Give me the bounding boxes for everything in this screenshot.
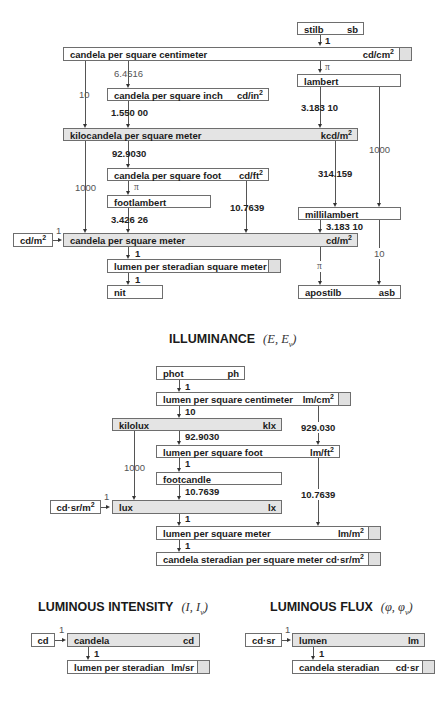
factor: π: [134, 182, 139, 193]
unit-kilocandela-per-square-meter: kilocandela per square meter kcd/m2: [63, 128, 358, 141]
unit-stilb: stilb sb: [297, 22, 364, 35]
unit-symbol: cd: [183, 635, 194, 646]
factor: 1.550 00: [111, 107, 148, 118]
unit-name: kilocandela per square meter: [70, 130, 201, 141]
unit-name: lux: [119, 502, 133, 513]
input-unit-bracket: cd: [31, 633, 55, 647]
unit-kilolux: kilolux klx: [112, 418, 282, 431]
unit-symbol: cd·sr/m2: [326, 554, 364, 565]
unit-candela-per-square-meter: candela per square meter cd/m2: [63, 233, 358, 247]
unit-name: candela steradian per square meter: [163, 554, 323, 565]
unit-symbol: sb: [347, 24, 358, 35]
unit-symbol: lm/ft2: [310, 447, 334, 458]
unit-name: lumen per square foot: [163, 447, 263, 458]
unit-name: lambert: [304, 76, 338, 87]
factor: 3.426 26: [111, 214, 148, 225]
factor: 3.183 10: [326, 221, 363, 232]
section-title-luminous-intensity: LUMINOUS INTENSITY(I, Iv): [38, 600, 208, 617]
unit-footcandle: footcandle: [156, 472, 282, 485]
si-marker-cell: [268, 260, 280, 272]
unit-footlambert: footlambert: [107, 195, 211, 208]
unit-symbol: cd/in2: [237, 90, 263, 101]
arrow-right-icon: [287, 638, 291, 642]
unit-name: candela per square inch: [114, 90, 223, 101]
unit-symbol: lm/m2: [338, 528, 364, 539]
factor: 929.030: [301, 422, 335, 433]
si-marker-cell: [399, 48, 411, 60]
unit-symbol: cd·sr: [396, 662, 419, 673]
unit-name: lumen per square centimeter: [163, 394, 293, 405]
input-unit-bracket: cd·sr/m2: [50, 500, 101, 514]
unit-symbol: cd/m2: [326, 235, 352, 246]
unit-candela-steradian-per-square-meter: candela steradian per square meter cd·sr…: [156, 552, 381, 566]
factor: 1000: [369, 144, 390, 155]
factor: 92.9030: [185, 431, 219, 442]
unit-name: candela per square foot: [114, 170, 221, 181]
unit-symbol: klx: [263, 420, 276, 431]
unit-name: candela per square meter: [70, 235, 185, 246]
input-unit-bracket: cd/m2: [13, 233, 53, 247]
factor: 1: [185, 458, 190, 469]
unit-symbol: cd/cm2: [363, 49, 394, 60]
factor: 1: [135, 274, 140, 285]
unit-name: candela steradian: [299, 662, 379, 673]
input-unit-bracket: cd·sr: [245, 633, 282, 647]
factor: 1000: [75, 182, 96, 193]
unit-candela-per-square-foot: candela per square foot cd/ft2: [107, 168, 269, 181]
factor: 1: [185, 513, 190, 524]
arrow-right-icon: [58, 238, 62, 242]
unit-lumen-per-square-foot: lumen per square foot lm/ft2: [156, 445, 340, 458]
unit-symbol: lx: [268, 502, 276, 513]
si-marker-cell: [422, 661, 434, 673]
unit-lumen-per-square-meter: lumen per square meter lm/m2: [156, 526, 381, 540]
si-marker-cell: [338, 393, 350, 405]
factor: 3.183 10: [301, 102, 338, 113]
unit-lumen-per-square-centimeter: lumen per square centimeter lm/cm2: [156, 392, 351, 406]
unit-symbol: lm/cm2: [303, 394, 334, 405]
factor: π: [317, 261, 322, 272]
factor: 1: [185, 540, 190, 551]
unit-name: lumen per steradian square meter: [114, 261, 267, 272]
unit-candela-steradian: candela steradian cd·sr: [292, 660, 435, 674]
factor: 10: [185, 406, 196, 417]
unit-lumen-per-steradian-square-meter: lumen per steradian square meter: [107, 259, 281, 273]
arrow-right-icon: [106, 505, 110, 509]
factor: 6.4516: [114, 68, 143, 79]
factor: 1: [325, 35, 330, 46]
factor: 10: [374, 248, 385, 259]
unit-lumen: lumen lm: [292, 633, 425, 647]
factor: 10.7639: [185, 486, 219, 497]
quantity-symbol: (I, Iv): [181, 600, 207, 614]
si-marker-cell: [197, 661, 209, 673]
unit-name: lumen: [299, 635, 327, 646]
arrow-right-icon: [62, 638, 66, 642]
unit-name: nit: [114, 287, 126, 298]
quantity-symbol: (E, Ev): [263, 332, 296, 346]
factor: 1: [135, 248, 140, 259]
factor: 1: [94, 648, 99, 659]
unit-candela-per-square-inch: candela per square inch cd/in2: [107, 88, 269, 101]
section-title-illuminance: ILLUMINANCE(E, Ev): [169, 332, 297, 349]
section-title-luminous-flux: LUMINOUS FLUX(φ, φv): [270, 600, 413, 617]
unit-name: stilb: [304, 24, 324, 35]
unit-name: kilolux: [119, 420, 149, 431]
factor: 1: [104, 491, 109, 502]
unit-name: phot: [163, 368, 184, 379]
unit-name: footcandle: [163, 474, 211, 485]
unit-name: candela: [74, 635, 109, 646]
unit-name: millilambert: [305, 209, 358, 220]
unit-symbol: lm/sr: [171, 662, 194, 673]
factor: 10: [79, 89, 90, 100]
arrow-down-icon: [318, 42, 322, 46]
unit-candela: candela cd: [67, 633, 200, 647]
si-marker-cell: [368, 527, 380, 539]
factor: 1000: [124, 462, 145, 473]
factor: 10.7639: [230, 202, 264, 213]
unit-lux: lux lx: [112, 500, 282, 514]
quantity-symbol: (φ, φv): [381, 600, 413, 614]
factor: 1: [285, 624, 290, 635]
factor: 1: [185, 381, 190, 392]
factor: 1: [319, 648, 324, 659]
arrow-down-icon: [318, 69, 322, 73]
factor: 314.159: [318, 168, 352, 179]
